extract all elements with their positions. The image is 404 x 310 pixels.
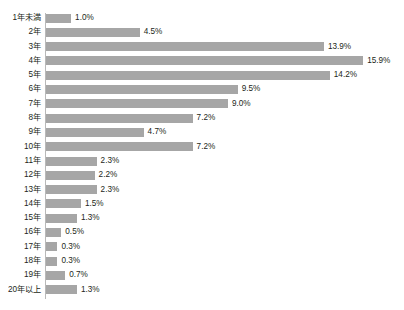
bar-segment bbox=[46, 257, 57, 266]
bar-category-label: 19年 bbox=[0, 268, 41, 282]
bar-value-label: 2.3% bbox=[101, 183, 120, 197]
bar-row: 15年1.3% bbox=[0, 211, 404, 225]
bar-row: 7年9.0% bbox=[0, 97, 404, 111]
bar-category-label: 8年 bbox=[0, 111, 41, 125]
bar-value-label: 1.3% bbox=[81, 283, 100, 297]
bar-category-label: 11年 bbox=[0, 154, 41, 168]
bar-category-label: 2年 bbox=[0, 25, 41, 39]
bar-segment bbox=[46, 271, 65, 280]
bar-category-label: 17年 bbox=[0, 240, 41, 254]
bar-value-label: 1.5% bbox=[85, 197, 104, 211]
bar-segment bbox=[46, 85, 238, 94]
bar-value-label: 7.2% bbox=[197, 140, 216, 154]
bar-row: 19年0.7% bbox=[0, 268, 404, 282]
bar-row: 18年0.3% bbox=[0, 254, 404, 268]
bar-category-label: 9年 bbox=[0, 125, 41, 139]
bar-value-label: 4.5% bbox=[144, 25, 163, 39]
bar-row: 9年4.7% bbox=[0, 125, 404, 139]
bar-category-label: 5年 bbox=[0, 68, 41, 82]
bar-segment bbox=[46, 242, 57, 251]
bar-row: 12年2.2% bbox=[0, 168, 404, 182]
bar-category-label: 18年 bbox=[0, 254, 41, 268]
bar-category-label: 13年 bbox=[0, 183, 41, 197]
bar-value-label: 4.7% bbox=[148, 125, 167, 139]
bar-row: 5年14.2% bbox=[0, 68, 404, 82]
bar-row: 17年0.3% bbox=[0, 240, 404, 254]
bar-segment bbox=[46, 56, 363, 65]
bar-segment bbox=[46, 142, 193, 151]
bar-category-label: 10年 bbox=[0, 140, 41, 154]
bar-row: 2年4.5% bbox=[0, 25, 404, 39]
bar-value-label: 2.2% bbox=[99, 168, 118, 182]
bar-category-label: 4年 bbox=[0, 54, 41, 68]
bar-value-label: 9.5% bbox=[242, 82, 261, 96]
bar-segment bbox=[46, 199, 81, 208]
bar-value-label: 13.9% bbox=[328, 40, 351, 54]
bar-segment bbox=[46, 214, 77, 223]
bar-category-label: 1年未満 bbox=[0, 11, 41, 25]
bar-value-label: 14.2% bbox=[334, 68, 357, 82]
bar-value-label: 1.0% bbox=[75, 11, 94, 25]
bar-value-label: 9.0% bbox=[232, 97, 251, 111]
bar-category-label: 7年 bbox=[0, 97, 41, 111]
bar-row: 20年以上1.3% bbox=[0, 283, 404, 297]
bar-segment bbox=[46, 114, 193, 123]
bar-value-label: 7.2% bbox=[197, 111, 216, 125]
bar-value-label: 1.3% bbox=[81, 211, 100, 225]
bar-row: 16年0.5% bbox=[0, 225, 404, 239]
bar-row: 6年9.5% bbox=[0, 82, 404, 96]
bar-segment bbox=[46, 185, 97, 194]
bar-segment bbox=[46, 171, 95, 180]
bar-category-label: 6年 bbox=[0, 82, 41, 96]
bar-row: 14年1.5% bbox=[0, 197, 404, 211]
bar-segment bbox=[46, 28, 140, 37]
bar-segment bbox=[46, 157, 97, 166]
bar-value-label: 0.3% bbox=[61, 254, 80, 268]
bar-row: 4年15.9% bbox=[0, 54, 404, 68]
bar-value-label: 0.5% bbox=[65, 225, 84, 239]
bar-row: 3年13.9% bbox=[0, 40, 404, 54]
bar-segment bbox=[46, 14, 71, 23]
bar-row: 11年2.3% bbox=[0, 154, 404, 168]
bar-chart: 1年未満1.0%2年4.5%3年13.9%4年15.9%5年14.2%6年9.5… bbox=[0, 11, 404, 310]
bar-category-label: 14年 bbox=[0, 197, 41, 211]
bar-segment bbox=[46, 71, 330, 80]
bar-row: 10年7.2% bbox=[0, 140, 404, 154]
bar-segment bbox=[46, 128, 144, 137]
bar-rows: 1年未満1.0%2年4.5%3年13.9%4年15.9%5年14.2%6年9.5… bbox=[0, 11, 404, 297]
bar-category-label: 20年以上 bbox=[0, 283, 41, 297]
bar-value-label: 0.3% bbox=[61, 240, 80, 254]
bar-segment bbox=[46, 42, 324, 51]
bar-row: 13年2.3% bbox=[0, 183, 404, 197]
chart-page: { "chart_data": { "type": "bar", "orient… bbox=[0, 0, 404, 310]
bar-row: 8年7.2% bbox=[0, 111, 404, 125]
bar-category-label: 3年 bbox=[0, 40, 41, 54]
chart-title-clipped bbox=[0, 0, 404, 7]
bar-segment bbox=[46, 99, 228, 108]
bar-value-label: 2.3% bbox=[101, 154, 120, 168]
bar-value-label: 15.9% bbox=[367, 54, 390, 68]
bar-row: 1年未満1.0% bbox=[0, 11, 404, 25]
bar-segment bbox=[46, 228, 61, 237]
bar-category-label: 15年 bbox=[0, 211, 41, 225]
bar-category-label: 16年 bbox=[0, 225, 41, 239]
bar-category-label: 12年 bbox=[0, 168, 41, 182]
bar-segment bbox=[46, 285, 77, 294]
bar-value-label: 0.7% bbox=[69, 268, 88, 282]
